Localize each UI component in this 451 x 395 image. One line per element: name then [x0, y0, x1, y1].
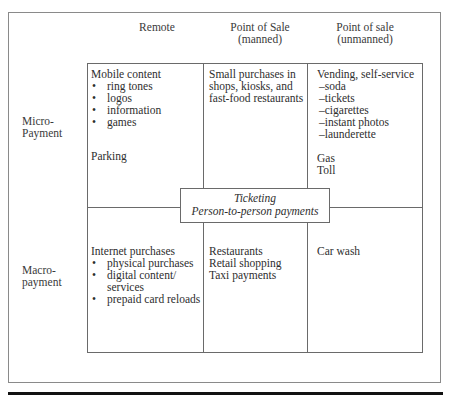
row-header-micro: Micro- Payment: [22, 115, 62, 139]
bullet-icon: •: [92, 257, 96, 269]
cell-extra-text: Parking: [91, 150, 161, 162]
list-item: •information: [91, 104, 161, 116]
list-item-text: prepaid card reloads: [107, 293, 200, 305]
overlay-line-p2p: Person-to-person payments: [181, 205, 329, 218]
column-header-pos-manned-line1: Point of Sale: [215, 21, 305, 33]
cell-micro-manned: Small purchases in shops, kiosks, and fa…: [209, 68, 303, 104]
cell-line: shops, kiosks, and: [209, 80, 303, 92]
row-header-macro: Macro- payment: [22, 264, 62, 288]
list-item: •logos: [91, 92, 161, 104]
list-item: –cigarettes: [317, 104, 414, 116]
column-header-remote-text: Remote: [122, 21, 192, 33]
column-header-pos-manned: Point of Sale (manned): [215, 21, 305, 45]
bullet-list: •physical purchases •digital content/ se…: [91, 257, 200, 305]
cell-line: Restaurants: [209, 245, 282, 257]
bullet-icon: •: [92, 104, 96, 116]
cell-extra-text: Toll: [317, 164, 414, 176]
cell-line: Taxi payments: [209, 269, 282, 281]
cell-extra-text: Gas: [317, 152, 414, 164]
list-item: •games: [91, 116, 161, 128]
list-item: •ring tones: [91, 80, 161, 92]
list-item: services: [91, 281, 200, 293]
cell-line: Retail shopping: [209, 257, 282, 269]
ticketing-overlay-box: Ticketing Person-to-person payments: [180, 188, 330, 223]
column-header-pos-manned-line2: (manned): [215, 33, 305, 45]
column-header-pos-unmanned-line1: Point of sale: [320, 21, 410, 33]
list-item-text: games: [107, 116, 136, 128]
cell-macro-manned: Restaurants Retail shopping Taxi payment…: [209, 245, 282, 281]
list-item-text: physical purchases: [107, 257, 194, 269]
cell-line: fast-food restaurants: [209, 92, 303, 104]
cell-macro-unmanned: Car wash: [317, 245, 360, 257]
list-item: •physical purchases: [91, 257, 200, 269]
bullet-icon: •: [92, 116, 96, 128]
row-header-micro-line1: Micro-: [22, 115, 62, 127]
cell-micro-remote: Mobile content •ring tones •logos •infor…: [91, 68, 161, 162]
cell-title: Internet purchases: [91, 245, 200, 257]
overlay-line-ticketing: Ticketing: [181, 192, 329, 205]
cell-micro-unmanned: Vending, self-service –soda –tickets –ci…: [317, 68, 414, 176]
list-item-text: information: [107, 104, 161, 116]
cell-line: Small purchases in: [209, 68, 303, 80]
dash-list: –soda –tickets –cigarettes –instant phot…: [317, 80, 414, 140]
list-item: –instant photos: [317, 116, 414, 128]
bullet-icon: •: [92, 293, 96, 305]
cell-title: Mobile content: [91, 68, 161, 80]
list-item-text: digital content/: [107, 269, 176, 281]
cell-line: Car wash: [317, 245, 360, 257]
row-header-macro-line2: payment: [22, 276, 62, 288]
list-item-text: ring tones: [107, 80, 153, 92]
cell-title: Vending, self-service: [317, 68, 414, 80]
list-item: –launderette: [317, 128, 414, 140]
list-item: –tickets: [317, 92, 414, 104]
bullet-list: •ring tones •logos •information •games: [91, 80, 161, 128]
list-item: •digital content/: [91, 269, 200, 281]
bullet-icon: •: [92, 92, 96, 104]
column-header-pos-unmanned: Point of sale (unmanned): [320, 21, 410, 45]
row-header-macro-line1: Macro-: [22, 264, 62, 276]
list-item-text: services: [107, 281, 144, 293]
cell-macro-remote: Internet purchases •physical purchases •…: [91, 245, 200, 305]
column-header-remote: Remote: [122, 21, 192, 33]
list-item: –soda: [317, 80, 414, 92]
bullet-icon: •: [92, 269, 96, 281]
list-item: •prepaid card reloads: [91, 293, 200, 305]
bullet-icon: •: [92, 80, 96, 92]
column-header-pos-unmanned-line2: (unmanned): [320, 33, 410, 45]
row-header-micro-line2: Payment: [22, 127, 62, 139]
list-item-text: logos: [107, 92, 132, 104]
